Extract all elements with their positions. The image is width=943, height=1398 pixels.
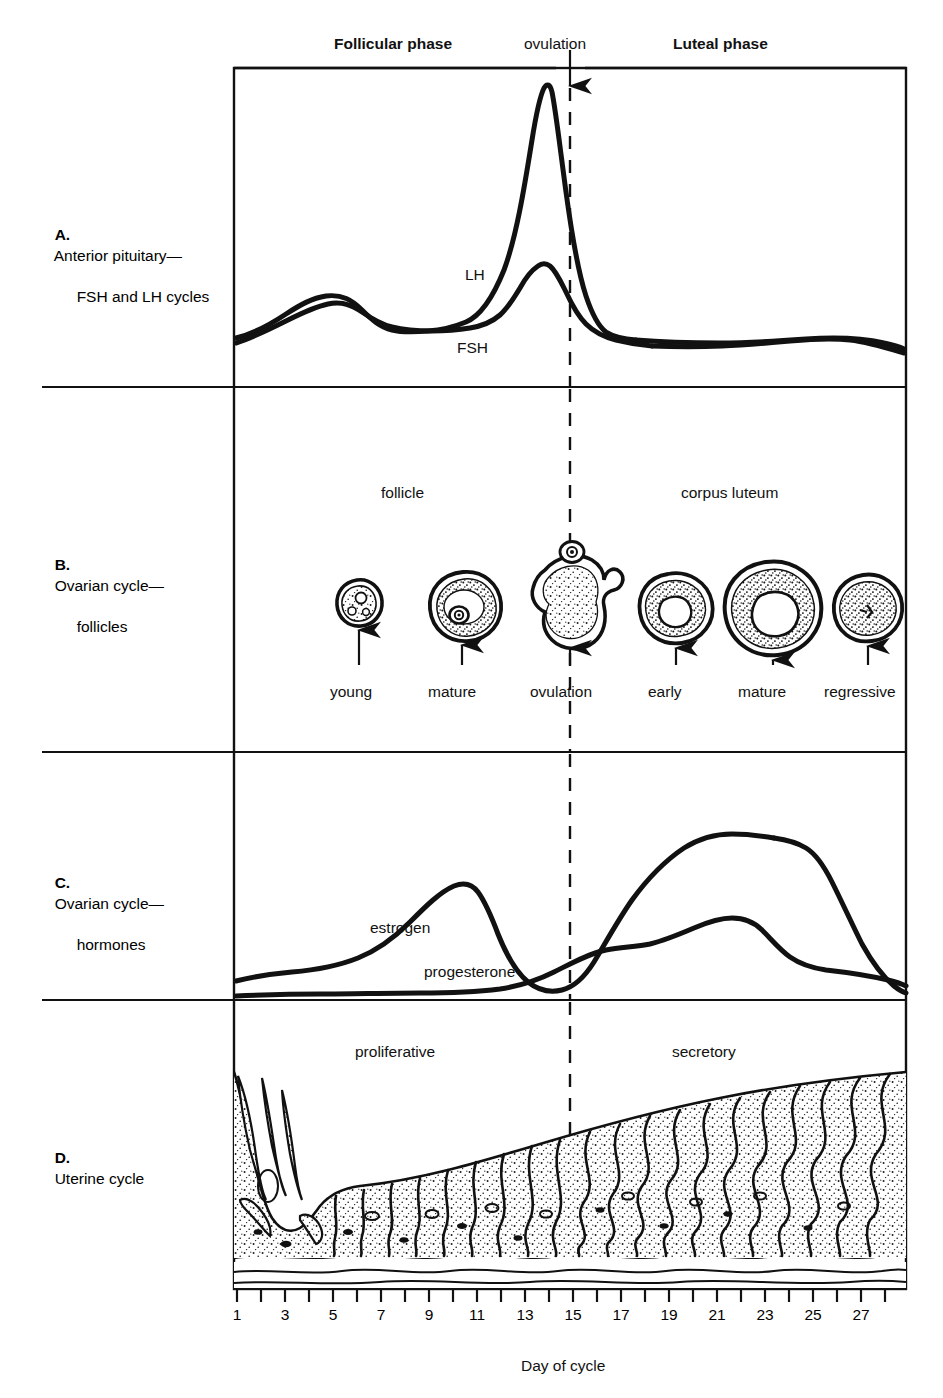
x-tick-17: 17 [601,1306,641,1324]
progesterone-curve-label: progesterone [424,962,515,982]
panel-label-b: B. Ovarian cycle— follicles [46,534,164,638]
panel-label-a: A. Anterior pituitary— FSH and LH cycles [46,204,209,308]
stage-label-young: young [330,682,372,702]
panel-title-b-line2: follicles [77,618,128,635]
follicle-group-label: follicle [381,483,424,503]
panel-title-d-line1: Uterine cycle [55,1170,145,1187]
follicular-phase-label: Follicular phase [334,34,452,54]
menstrual-cycle-figure: Follicular phase ovulation Luteal phase … [0,0,943,1398]
x-tick-13: 13 [505,1306,545,1324]
panel-title-c-line2: hormones [77,936,146,953]
panel-label-c: C. Ovarian cycle— hormones [46,852,164,956]
secretory-label: secretory [672,1042,736,1062]
panel-label-d: D. Uterine cycle [46,1127,144,1189]
x-tick-7: 7 [361,1306,401,1324]
x-tick-9: 9 [409,1306,449,1324]
estrogen-curve-label: estrogen [370,918,430,938]
stage-label-regressive: regressive [824,682,896,702]
panel-letter-a: A. [55,226,71,243]
panel-letter-c: C. [55,874,71,891]
stage-label-ovulation: ovulation [530,682,592,702]
stage-label-mature-follicle: mature [428,682,476,702]
x-axis-title: Day of cycle [521,1356,605,1376]
x-tick-23: 23 [745,1306,785,1324]
luteal-phase-label: Luteal phase [673,34,768,54]
lh-curve-label: LH [465,265,485,285]
x-tick-5: 5 [313,1306,353,1324]
x-tick-11: 11 [457,1306,497,1324]
x-tick-27: 27 [841,1306,881,1324]
x-tick-21: 21 [697,1306,737,1324]
panel-title-b-line1: Ovarian cycle— [55,577,164,594]
proliferative-label: proliferative [355,1042,435,1062]
x-tick-25: 25 [793,1306,833,1324]
panel-letter-d: D. [55,1149,71,1166]
x-tick-1: 1 [217,1306,257,1324]
panel-title-a-line2: FSH and LH cycles [77,288,210,305]
stage-label-early: early [648,682,682,702]
panel-letter-b: B. [55,556,71,573]
x-tick-3: 3 [265,1306,305,1324]
fsh-curve-label: FSH [457,338,488,358]
stage-label-mature-cl: mature [738,682,786,702]
corpus-luteum-group-label: corpus luteum [681,483,778,503]
x-tick-19: 19 [649,1306,689,1324]
x-tick-15: 15 [553,1306,593,1324]
ovulation-top-label: ovulation [524,34,586,54]
panel-title-a-line1: Anterior pituitary— [54,247,182,264]
panel-title-c-line1: Ovarian cycle— [55,895,164,912]
